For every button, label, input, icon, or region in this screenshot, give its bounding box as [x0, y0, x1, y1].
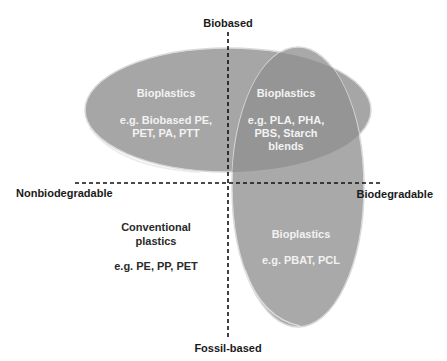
axis-label-fossil-based: Fossil-based	[194, 342, 261, 354]
region-example-line: e.g. Biobased PE,	[120, 114, 212, 126]
region-title: Bioplastics	[272, 228, 331, 240]
region-example-line: e.g. PLA, PHA,	[248, 114, 324, 126]
axis-label-biobased: Biobased	[203, 17, 253, 29]
region-example-line: e.g. PBAT, PCL	[262, 254, 340, 266]
axis-label-biodegradable: Biodegradable	[357, 188, 433, 200]
region-example-line: blends	[268, 140, 303, 152]
region-title: plastics	[136, 235, 177, 247]
region-example-line: e.g. PE, PP, PET	[114, 260, 198, 272]
axis-label-nonbiodegradable: Nonbiodegradable	[16, 187, 113, 199]
region-title: Bioplastics	[257, 87, 316, 99]
region-fossil-nonbiodegradable: Conventional plastics e.g. PE, PP, PET	[114, 221, 198, 272]
region-title: Bioplastics	[137, 87, 196, 99]
bioplastics-classification-diagram: Biobased Fossil-based Nonbiodegradable B…	[0, 0, 447, 361]
region-example-line: PET, PA, PTT	[132, 127, 200, 139]
region-title: Conventional	[121, 221, 191, 233]
region-example-line: PBS, Starch	[255, 127, 318, 139]
